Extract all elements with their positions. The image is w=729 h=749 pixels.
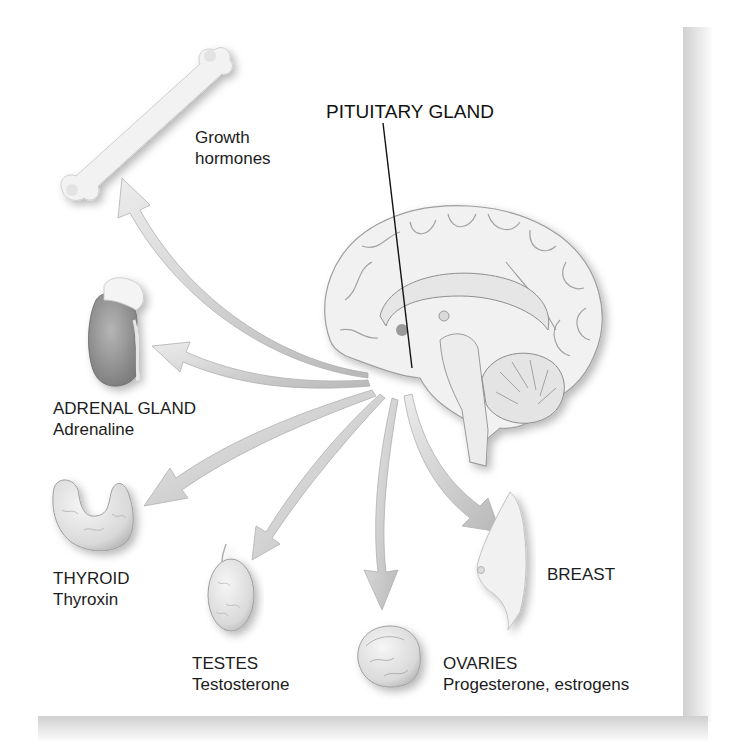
ovaries-title: OVARIES [443, 653, 629, 674]
breast-title: BREAST [547, 564, 615, 585]
ovaries-label: OVARIES Progesterone, estrogens [443, 653, 629, 695]
adrenal-gland-label: ADRENAL GLAND Adrenaline [53, 398, 196, 440]
thyroid-label: THYROID Thyroxin [53, 568, 130, 610]
kidney-adrenal-icon [89, 278, 144, 386]
pituitary-gland-label: PITUITARY GLAND [326, 101, 494, 123]
growth-hormone-line1: Growth [195, 127, 271, 148]
ovaries-hormone: Progesterone, estrogens [443, 674, 629, 695]
thyroid-icon [53, 480, 133, 551]
testis-icon [208, 544, 254, 631]
breast-label: BREAST [547, 564, 615, 585]
thyroid-hormone: Thyroxin [53, 589, 130, 610]
bone-growth-hormone-label: Growth hormones [195, 127, 271, 169]
testes-label: TESTES Testosterone [192, 653, 289, 695]
testes-title: TESTES [192, 653, 289, 674]
growth-hormone-line2: hormones [195, 148, 271, 169]
adrenal-title: ADRENAL GLAND [53, 398, 196, 419]
ovary-icon [358, 626, 420, 687]
brain-sagittal-icon [325, 206, 602, 466]
testes-hormone: Testosterone [192, 674, 289, 695]
diagram-panel: PITUITARY GLAND Growth hormones ADRENAL … [0, 0, 729, 749]
arrow-to-ovaries [364, 398, 398, 610]
thyroid-title: THYROID [53, 568, 130, 589]
femur-bone-icon [61, 48, 232, 201]
adrenal-hormone: Adrenaline [53, 419, 196, 440]
